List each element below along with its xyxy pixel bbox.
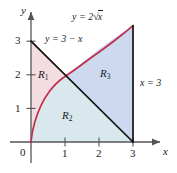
region-label-r2-sub: 2: [69, 114, 73, 123]
region-label-r2: R2: [62, 110, 72, 121]
origin-label: 0: [20, 147, 26, 158]
region-label-r1-letter: R: [38, 68, 45, 80]
x-tick-label-3: 3: [130, 148, 136, 159]
vertical-line-x3-label: x = 3: [140, 78, 161, 88]
x-axis-name: x: [163, 146, 168, 157]
sqrt-curve-label-radicand: x: [98, 10, 103, 22]
y-axis-name: y: [21, 5, 26, 16]
sqrt-curve-label-prefix: y = 2: [72, 11, 93, 22]
x-tick-label-1: 1: [62, 148, 68, 159]
y-axis-arrow: [28, 12, 35, 20]
y-tick-label-2: 2: [15, 69, 21, 80]
line-3-minus-x-label: y = 3 − x: [45, 34, 82, 44]
y-tick-label-1: 1: [15, 103, 21, 114]
region-label-r3-sub: 3: [107, 72, 111, 81]
sqrt-curve-label: y = 2√x: [72, 12, 103, 22]
region-label-r2-letter: R: [62, 109, 69, 121]
figure-container: y x 0 1 2 3 1 2 3 y = 2√x y = 3 − x x = …: [0, 0, 177, 173]
region-label-r3-letter: R: [100, 67, 107, 79]
region-label-r1-sub: 1: [45, 73, 49, 82]
region-label-r1: R1: [38, 69, 48, 80]
x-axis-arrow: [152, 139, 160, 146]
y-tick-label-3: 3: [15, 35, 21, 46]
x-tick-label-2: 2: [96, 148, 102, 159]
region-label-r3: R3: [100, 68, 110, 79]
